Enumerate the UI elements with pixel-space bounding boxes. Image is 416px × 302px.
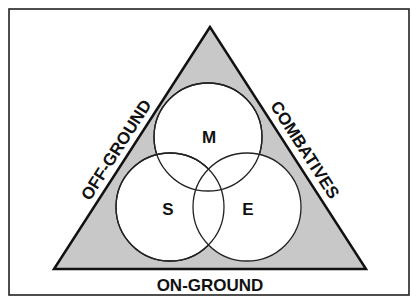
circle-label-e: E [242, 200, 253, 219]
triangle-venn-diagram: M S E OFF-GROUND COMBATIVES ON-GROUND [0, 0, 416, 302]
side-label-on-ground: ON-GROUND [157, 276, 264, 295]
circle-label-m: M [202, 128, 216, 147]
circle-label-s: S [162, 200, 173, 219]
